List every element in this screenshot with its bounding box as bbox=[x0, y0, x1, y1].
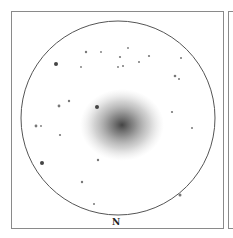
star bbox=[191, 127, 193, 129]
star bbox=[59, 134, 61, 136]
star bbox=[54, 62, 58, 66]
star bbox=[35, 125, 38, 128]
star bbox=[178, 78, 180, 80]
star bbox=[180, 57, 182, 59]
star bbox=[171, 111, 173, 113]
eyepiece-field bbox=[0, 0, 233, 238]
star bbox=[95, 105, 99, 109]
star bbox=[81, 181, 83, 183]
star bbox=[97, 159, 99, 161]
star bbox=[117, 66, 119, 68]
star bbox=[40, 161, 44, 165]
galaxy-glow bbox=[80, 89, 164, 161]
star bbox=[40, 125, 42, 127]
star bbox=[127, 47, 129, 49]
star bbox=[122, 65, 124, 67]
star bbox=[58, 105, 61, 108]
star bbox=[85, 51, 87, 53]
north-label: N bbox=[112, 217, 120, 227]
star bbox=[179, 194, 182, 197]
star bbox=[174, 75, 177, 78]
star bbox=[148, 55, 150, 57]
star bbox=[68, 100, 70, 102]
star bbox=[119, 56, 121, 58]
star bbox=[138, 61, 140, 63]
star bbox=[100, 51, 102, 53]
star bbox=[80, 66, 82, 68]
star bbox=[93, 203, 95, 205]
